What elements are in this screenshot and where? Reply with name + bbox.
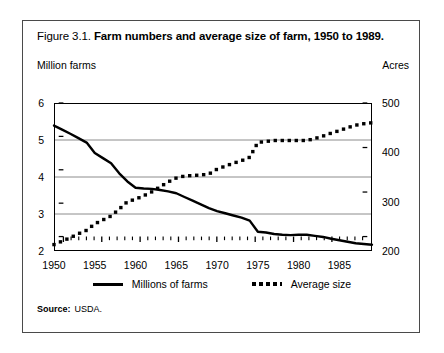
y2-axis-tick-label: 300 xyxy=(382,196,412,208)
source-note: Source:USDA. xyxy=(37,304,102,314)
y2-axis-tick-label: 200 xyxy=(382,245,412,257)
y-axis-tick-label: 4 xyxy=(22,171,44,183)
x-axis-tick-label: 1965 xyxy=(165,259,188,271)
x-axis-tick-label: 1975 xyxy=(246,259,269,271)
legend-entry: Average size xyxy=(252,278,352,290)
x-axis-tick-label: 1950 xyxy=(42,259,65,271)
y-axis-tick-label: 2 xyxy=(22,245,44,257)
legend-entry: Millions of farms xyxy=(93,278,208,290)
left-axis-unit-label: Million farms xyxy=(37,59,96,71)
source-value: USDA. xyxy=(75,304,103,314)
figure-container: Figure 3.1.Farm numbers and average size… xyxy=(22,20,420,333)
figure-title: Figure 3.1.Farm numbers and average size… xyxy=(37,30,384,42)
source-label: Source: xyxy=(37,304,71,314)
figure-number: Figure 3.1. xyxy=(37,30,91,42)
x-axis-tick-label: 1980 xyxy=(287,259,310,271)
figure-title-text: Farm numbers and average size of farm, 1… xyxy=(94,30,384,42)
y2-axis-tick-label: 500 xyxy=(382,97,412,109)
y-axis-tick-label: 6 xyxy=(22,97,44,109)
axis-ticks xyxy=(54,103,372,251)
legend: Millions of farmsAverage size xyxy=(23,273,421,295)
y-axis-tick-label: 3 xyxy=(22,208,44,220)
right-axis-unit-label: Acres xyxy=(382,59,409,71)
legend-label: Millions of farms xyxy=(132,278,208,290)
x-axis-tick-label: 1970 xyxy=(205,259,228,271)
legend-swatch-solid xyxy=(93,283,123,286)
y-axis-tick-label: 5 xyxy=(22,134,44,146)
x-axis-tick-label: 1985 xyxy=(328,259,351,271)
legend-swatch-dotted xyxy=(252,282,282,286)
plot-area: 2345620030040050019501955196019651970197… xyxy=(54,103,372,251)
x-axis-tick-label: 1960 xyxy=(124,259,147,271)
legend-label: Average size xyxy=(291,278,352,290)
x-axis-tick-label: 1955 xyxy=(83,259,106,271)
y2-axis-tick-label: 400 xyxy=(382,146,412,158)
